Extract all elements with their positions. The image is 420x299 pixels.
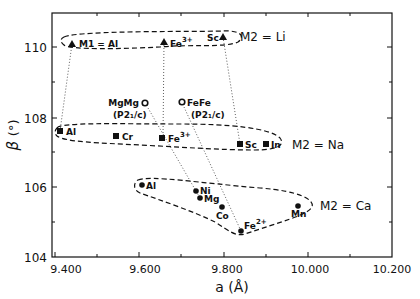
y-tick-label: 104 bbox=[24, 251, 47, 265]
circle-marker bbox=[219, 204, 225, 210]
point-label: Cr bbox=[122, 132, 134, 142]
y-ticks bbox=[52, 47, 392, 222]
point-label: Fe3+ bbox=[170, 36, 193, 49]
square-marker bbox=[263, 141, 269, 147]
point-label: MgMg bbox=[108, 98, 139, 108]
circle-marker bbox=[295, 203, 301, 209]
point-label: Mg bbox=[204, 194, 219, 204]
y-tick-label: 110 bbox=[24, 41, 47, 55]
open-circle-marker bbox=[179, 99, 185, 105]
triangle-marker bbox=[68, 40, 76, 47]
point-label: Fe3+ bbox=[168, 131, 191, 144]
x-tick-label: 10.200 bbox=[373, 263, 412, 276]
point-label: FeFe bbox=[187, 98, 211, 108]
point-label: Fe2+ bbox=[244, 218, 267, 231]
x-tick-label: 10.000 bbox=[291, 263, 330, 276]
x-tick-label: 9.400 bbox=[50, 263, 82, 276]
triangle-marker bbox=[160, 38, 168, 45]
point-label: Al bbox=[146, 181, 156, 191]
x-ticks bbox=[55, 13, 350, 257]
circle-marker bbox=[238, 228, 244, 234]
square-marker bbox=[159, 135, 165, 141]
point-label: In bbox=[271, 140, 281, 150]
square-marker bbox=[57, 128, 63, 134]
point-label: Co bbox=[216, 211, 229, 221]
circle-marker bbox=[139, 182, 145, 188]
point-label: Sc bbox=[245, 140, 257, 150]
na-group-label: M2 = Na bbox=[292, 138, 344, 152]
scatter-chart: 110 108 106 104 9.400 9.600 9.800 10.000… bbox=[0, 0, 420, 299]
open-circle-marker bbox=[142, 100, 148, 106]
y-axis-title: β (°) bbox=[4, 119, 22, 151]
triangle-marker bbox=[219, 33, 227, 40]
li-group-label: M2 = Li bbox=[240, 30, 286, 44]
na-points bbox=[57, 128, 269, 147]
point-label: M1 = Al bbox=[79, 39, 118, 49]
y-tick-label: 106 bbox=[24, 181, 47, 195]
circle-marker bbox=[193, 188, 199, 194]
point-label: Sc bbox=[207, 33, 219, 43]
ca-group-label: M2 = Ca bbox=[320, 199, 371, 213]
y-tick-label: 108 bbox=[24, 112, 47, 126]
circle-marker bbox=[197, 195, 203, 201]
square-marker bbox=[113, 133, 119, 139]
y-axis-symbol: β (°) bbox=[4, 119, 22, 151]
point-label: (P2₁/c) bbox=[113, 110, 147, 120]
point-label: (P2₁/c) bbox=[191, 110, 225, 120]
chart-svg: 110 108 106 104 9.400 9.600 9.800 10.000… bbox=[0, 0, 420, 299]
point-label: Mn bbox=[291, 209, 306, 219]
x-tick-label: 9.800 bbox=[211, 263, 243, 276]
x-axis-title: a (Å) bbox=[215, 279, 249, 295]
square-marker bbox=[237, 141, 243, 147]
point-label: Al bbox=[66, 127, 76, 137]
x-tick-label: 9.600 bbox=[129, 263, 161, 276]
